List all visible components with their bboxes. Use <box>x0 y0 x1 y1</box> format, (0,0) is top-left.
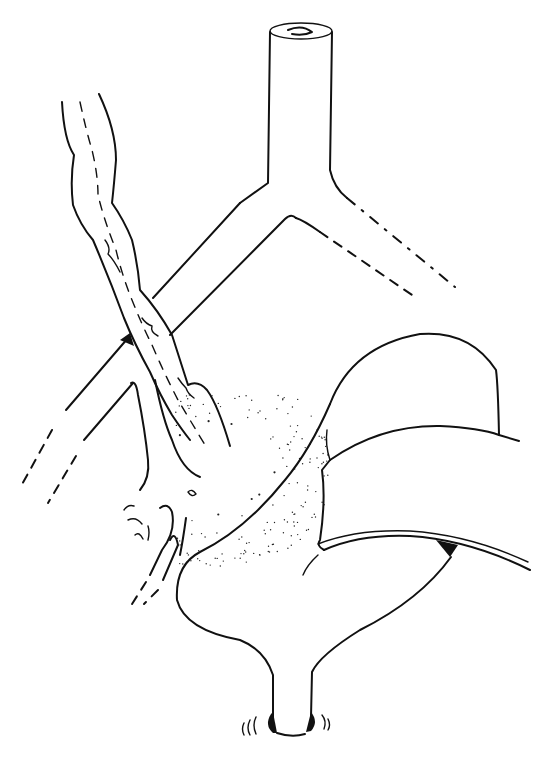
stipple-dot <box>240 558 241 559</box>
stipple-dot <box>301 505 302 506</box>
tube-lumen <box>288 27 312 34</box>
flap-left-edge <box>319 460 330 550</box>
stipple-dot <box>327 475 328 476</box>
folded-organ <box>318 334 530 570</box>
sac-right-contour <box>311 557 451 717</box>
stipple-dot <box>279 448 280 449</box>
right-branch-upper-dashed <box>347 198 455 287</box>
stipple-dot <box>259 554 260 555</box>
stipple-dot <box>315 516 316 517</box>
organ-upper-dome <box>330 334 519 441</box>
right-motion-marks <box>322 715 330 730</box>
stipple-dot <box>277 551 278 552</box>
stipple-dot <box>315 491 316 492</box>
stipple-dot <box>307 489 308 490</box>
neck-left-shadow <box>268 712 277 733</box>
stipple-dot <box>302 463 303 464</box>
stipple-dot <box>308 529 309 530</box>
stipple-dot <box>251 498 253 500</box>
stipple-dot <box>190 405 191 406</box>
stipple-dot <box>257 412 258 413</box>
stipple-dot <box>291 535 292 536</box>
stipple-dot <box>265 418 266 419</box>
flap-upper-edge <box>330 426 499 460</box>
stipple-dot <box>195 416 196 417</box>
stipple-dot <box>187 405 188 406</box>
stipple-dot <box>293 436 294 437</box>
stipple-dot <box>187 553 188 554</box>
tortuous-vessel <box>62 94 230 446</box>
stipple-dot <box>190 560 191 561</box>
flap-lower-edge <box>324 536 530 570</box>
tortuous-vessel-left-wall <box>62 102 190 440</box>
stipple-dot <box>283 495 284 496</box>
left-branch-dashed-2 <box>48 456 76 503</box>
stipple-dot <box>253 553 254 554</box>
stipple-dot <box>268 546 269 547</box>
stipple-dot <box>306 530 307 531</box>
stipple-dot <box>243 553 244 554</box>
stipple-dot <box>287 413 288 414</box>
stipple-dot <box>289 449 290 450</box>
stipple-dot <box>220 406 221 407</box>
stipple-dot <box>210 564 211 565</box>
stipple-dot <box>248 542 249 543</box>
stipple-dot <box>179 540 180 541</box>
left-motion-marks <box>243 717 257 735</box>
neck-bottom <box>277 733 305 736</box>
stipple-dot <box>305 502 306 503</box>
lower-branching-vessel <box>124 380 200 604</box>
stipple-dot <box>323 462 324 463</box>
left-branch <box>20 203 320 503</box>
stipple-dot <box>188 554 189 555</box>
stipple-dot <box>216 532 217 533</box>
lower-vessel-branch-right <box>180 518 186 555</box>
stipple-dot <box>215 558 216 559</box>
stipple-dot <box>290 425 291 426</box>
stipple-dot <box>240 553 241 554</box>
neck-right-shadow <box>306 712 315 732</box>
tube-opening <box>270 23 332 39</box>
sac-with-neck <box>177 404 451 736</box>
tube-left-wall <box>240 32 270 203</box>
stipple-dot <box>311 415 312 416</box>
stipple-dot <box>245 395 246 396</box>
stipple-dot <box>209 413 210 414</box>
stipple-dot <box>309 462 310 463</box>
stipple-dot <box>321 463 322 464</box>
stipple-dot <box>245 551 246 552</box>
anatomical-illustration <box>0 0 559 762</box>
stipple-dot <box>310 458 311 459</box>
stipple-dot <box>175 412 176 413</box>
bifurcation-crotch <box>296 218 320 232</box>
tributary-loop <box>188 490 196 495</box>
flap-crease <box>326 430 330 460</box>
stipple-dot <box>215 405 216 406</box>
lower-vessel-branch-mid <box>163 536 178 580</box>
stipple-dot <box>305 447 306 448</box>
stipple-dot <box>199 560 200 561</box>
inner-wavy-mark-2 <box>142 318 158 336</box>
stipple-dot <box>283 532 284 533</box>
stipple-dot <box>270 438 271 439</box>
right-branch <box>320 198 455 297</box>
stipple-dot <box>319 436 320 437</box>
stipple-dot <box>251 400 252 401</box>
stipple-dot <box>269 551 270 552</box>
lower-vessel-tributaries <box>124 506 149 541</box>
stipple-dot <box>272 436 273 437</box>
left-branch-inner-lower <box>84 383 133 440</box>
stipple-dot <box>276 408 277 409</box>
stipple-dot <box>230 423 232 425</box>
stipple-dot <box>247 417 248 418</box>
stipple-dot <box>296 431 297 432</box>
stipple-dot <box>249 409 250 410</box>
stipple-dot <box>241 515 242 516</box>
stipple-dot <box>246 561 247 562</box>
stipple-dot <box>234 398 235 399</box>
stipple-dot <box>265 533 266 534</box>
stipple-dot <box>179 405 180 406</box>
stipple-dot <box>287 548 288 549</box>
stipple-dot <box>273 471 275 473</box>
stipple-dot <box>220 565 221 566</box>
